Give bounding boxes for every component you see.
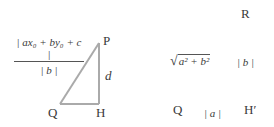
formula-denominator: | b | [14, 64, 84, 76]
horizontal-label-a: | a | [204, 108, 221, 119]
vertical-label-b: | b | [237, 57, 254, 68]
sqrt-radicand: a² + b² [178, 54, 211, 67]
vertex-label-h-prime: H′ [244, 103, 256, 116]
radical-sign-icon: √ [170, 53, 178, 68]
hypotenuse-sqrt-label: √a² + b² [170, 53, 210, 69]
vertex-label-q: Q [48, 106, 57, 119]
vertex-label-p: P [103, 34, 110, 47]
vertex-label-q-right: Q [173, 103, 182, 116]
formula-numerator: | ax₀ + by₀ + c | [14, 36, 84, 61]
distance-formula: | ax₀ + by₀ + c | | b | [14, 36, 84, 76]
vertex-label-h: H [96, 106, 105, 119]
vertex-label-r: R [241, 7, 250, 20]
fraction-bar [14, 61, 84, 62]
side-label-d: d [105, 69, 112, 82]
